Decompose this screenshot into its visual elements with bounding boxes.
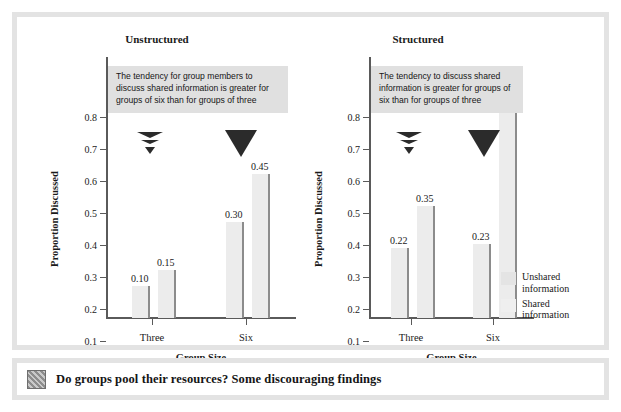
y-tick-label-right-1: 0.7: [348, 144, 361, 155]
legend-item-shared: Sharedinformation: [501, 298, 597, 322]
callout-unstructured: The tendency for group members to discus…: [108, 66, 288, 113]
y-tick-left-7: [100, 341, 106, 342]
y-tick-right-5: [363, 277, 369, 278]
bar-unstructured-six-unshared: 0.30: [226, 222, 244, 318]
y-tick-label-left-7: 0.1: [85, 336, 98, 347]
legend-item-unshared: Unsharedinformation: [501, 271, 597, 295]
y-tick-label-right-2: 0.6: [348, 176, 361, 187]
y-tick-label-right-0: 0.8: [348, 112, 361, 123]
legend-label-unshared-line2: information: [522, 283, 569, 294]
y-tick-right-6: [363, 309, 369, 310]
y-tick-left-6: [100, 309, 106, 310]
y-tick-left-4: [100, 245, 106, 246]
y-tick-left-2: [100, 181, 106, 182]
x-tick-left-three: [152, 319, 153, 325]
triangle-medium-icon: [400, 140, 418, 144]
figure-page: Unstructured Proportion Discussed 0.8 0.…: [0, 0, 621, 412]
triangle-small-icon: [404, 147, 414, 154]
triangle-small-icon: [145, 147, 155, 154]
bar-value-structured-six-unshared: 0.23: [472, 231, 490, 242]
triple-triangle-marker-left: [137, 132, 163, 158]
y-tick-label-right-6: 0.2: [348, 304, 361, 315]
charts-container: Unstructured Proportion Discussed 0.8 0.…: [17, 17, 604, 345]
y-tick-left-0: [100, 117, 106, 118]
y-tick-label-left-5: 0.3: [85, 272, 98, 283]
panel-title-unstructured: Unstructured: [57, 33, 257, 45]
bar-value-unstructured-six-shared: 0.45: [251, 161, 269, 172]
y-tick-right-7: [363, 341, 369, 342]
triangle-down-icon: [225, 130, 257, 157]
bar-value-structured-three-unshared: 0.22: [390, 235, 408, 246]
y-tick-left-1: [100, 149, 106, 150]
legend-label-unshared-line1: Unshared: [522, 271, 560, 282]
legend-label-shared: Sharedinformation: [522, 298, 569, 322]
y-tick-label-right-5: 0.3: [348, 272, 361, 283]
y-tick-right-2: [363, 181, 369, 182]
y-tick-label-right-4: 0.4: [348, 240, 361, 251]
bar-structured-six-unshared: 0.23: [473, 244, 491, 318]
thumbnail-icon: [27, 370, 46, 389]
caption-frame: Do groups pool their resources? Some dis…: [12, 358, 609, 400]
y-axis-title-right: Proportion Discussed: [313, 171, 324, 267]
y-tick-label-left-2: 0.6: [85, 176, 98, 187]
x-tick-label-left-three: Three: [140, 332, 164, 343]
y-tick-right-3: [363, 213, 369, 214]
bar-value-unstructured-three-shared: 0.15: [157, 257, 175, 268]
triangle-medium-icon: [141, 140, 159, 144]
y-tick-label-right-3: 0.5: [348, 208, 361, 219]
legend-swatch-shared-icon: [501, 299, 516, 312]
y-tick-label-right-7: 0.1: [348, 336, 361, 347]
chart-frame: Unstructured Proportion Discussed 0.8 0.…: [12, 12, 609, 350]
y-tick-left-5: [100, 277, 106, 278]
panel-title-structured: Structured: [323, 33, 513, 45]
x-tick-right-three: [411, 319, 412, 325]
x-tick-left-six: [246, 319, 247, 325]
triangle-down-icon: [468, 130, 500, 157]
bar-value-unstructured-three-unshared: 0.10: [131, 273, 149, 284]
x-tick-right-six: [493, 319, 494, 325]
legend-label-unshared: Unsharedinformation: [522, 271, 569, 295]
y-tick-right-1: [363, 149, 369, 150]
legend-swatch-unshared-icon: [501, 272, 516, 285]
y-tick-label-left-1: 0.7: [85, 144, 98, 155]
solid-triangle-marker-right: [468, 130, 500, 160]
y-tick-label-left-0: 0.8: [85, 112, 98, 123]
y-tick-right-0: [363, 117, 369, 118]
chart-legend: Unsharedinformation Sharedinformation: [501, 271, 597, 324]
bar-value-unstructured-six-unshared: 0.30: [225, 209, 243, 220]
legend-label-shared-line1: Shared: [522, 298, 550, 309]
legend-label-shared-line2: information: [522, 309, 569, 320]
y-tick-right-4: [363, 245, 369, 246]
y-axis-title-left: Proportion Discussed: [49, 171, 60, 267]
callout-structured: The tendency to discuss shared informati…: [371, 66, 523, 113]
bar-unstructured-three-unshared: 0.10: [132, 286, 150, 318]
bar-structured-three-unshared: 0.22: [391, 248, 409, 318]
bar-value-structured-three-shared: 0.35: [416, 193, 434, 204]
x-tick-label-left-six: Six: [239, 332, 253, 343]
bar-structured-three-shared: 0.35: [417, 206, 435, 318]
x-tick-label-right-three: Three: [399, 332, 423, 343]
triple-triangle-marker-right: [396, 132, 422, 158]
y-tick-left-3: [100, 213, 106, 214]
panel-unstructured: Unstructured Proportion Discussed 0.8 0.…: [35, 17, 303, 345]
bar-unstructured-six-shared: 0.45: [252, 174, 270, 318]
triangle-large-icon: [137, 132, 163, 138]
solid-triangle-marker-left: [225, 130, 257, 160]
triangle-large-icon: [396, 132, 422, 138]
y-tick-label-left-3: 0.5: [85, 208, 98, 219]
y-tick-label-left-4: 0.4: [85, 240, 98, 251]
y-tick-label-left-6: 0.2: [85, 304, 98, 315]
caption-text: Do groups pool their resources? Some dis…: [56, 372, 381, 387]
bar-unstructured-three-shared: 0.15: [158, 270, 176, 318]
x-tick-label-right-six: Six: [486, 332, 500, 343]
caption-row: Do groups pool their resources? Some dis…: [17, 363, 604, 395]
